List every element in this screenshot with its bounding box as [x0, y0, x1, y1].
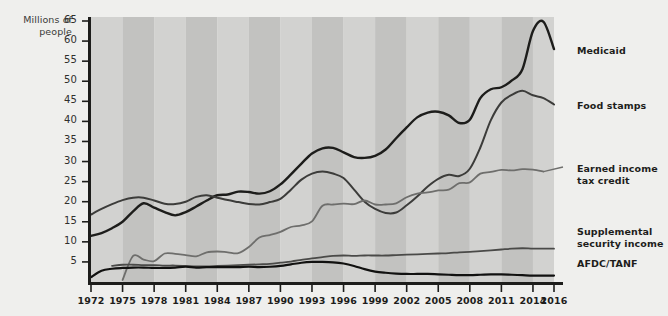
y-tick-label: 30 — [53, 155, 77, 166]
x-tick-label: 2016 — [538, 295, 570, 306]
x-tick-label: 1984 — [201, 295, 233, 306]
x-tick-label: 1981 — [170, 295, 202, 306]
line-chart-canvas — [0, 0, 668, 316]
plot-band — [91, 17, 123, 282]
x-tick-label: 1978 — [138, 295, 170, 306]
x-tick-label: 1990 — [264, 295, 296, 306]
y-tick-label: 60 — [53, 34, 77, 45]
plot-band — [501, 17, 533, 282]
chart-root: Millions of people 510152025303540455055… — [0, 0, 668, 316]
x-tick-label: 1975 — [107, 295, 139, 306]
x-tick-label: 2002 — [391, 295, 423, 306]
series-label-food-stamps: Food stamps — [577, 100, 665, 112]
plot-band — [407, 17, 439, 282]
x-tick-label: 1987 — [233, 295, 265, 306]
y-tick-label: 55 — [53, 54, 77, 65]
plot-band — [470, 17, 502, 282]
y-tick-label: 20 — [53, 195, 77, 206]
series-label-medicaid: Medicaid — [577, 45, 665, 57]
plot-band — [217, 17, 249, 282]
plot-band — [123, 17, 155, 282]
series-label-supplemental-security-income: Supplemental security income — [577, 226, 665, 249]
y-tick-label: 5 — [53, 255, 77, 266]
x-tick-label: 1999 — [359, 295, 391, 306]
x-tick-label: 2008 — [454, 295, 486, 306]
plot-band — [344, 17, 376, 282]
plot-band — [533, 17, 554, 282]
x-tick-label: 1972 — [75, 295, 107, 306]
x-tick-label: 1996 — [328, 295, 360, 306]
series-label-earned-income-tax-credit: Earned income tax credit — [577, 163, 665, 186]
y-tick-label: 25 — [53, 175, 77, 186]
x-tick-label: 2005 — [422, 295, 454, 306]
plot-band — [375, 17, 407, 282]
y-tick-label: 45 — [53, 94, 77, 105]
plot-band — [154, 17, 186, 282]
y-tick-label: 50 — [53, 74, 77, 85]
plot-band — [438, 17, 470, 282]
y-tick-label: 65 — [53, 14, 77, 25]
y-tick-label: 35 — [53, 134, 77, 145]
y-tick-label: 15 — [53, 215, 77, 226]
y-tick-label: 40 — [53, 114, 77, 125]
series-label-afdc-tanf: AFDC/TANF — [577, 258, 665, 270]
y-tick-label: 10 — [53, 235, 77, 246]
plot-band — [186, 17, 218, 282]
plot-band — [280, 17, 312, 282]
x-tick-label: 1993 — [296, 295, 328, 306]
x-tick-label: 2011 — [485, 295, 517, 306]
